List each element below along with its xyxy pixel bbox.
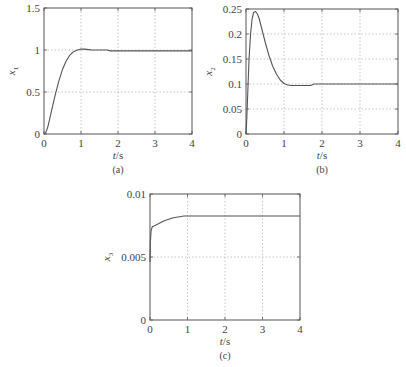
y-tick-label: 0.05 [223,103,243,115]
y-tick-label: 0.2 [228,28,242,40]
x-tick-label: 0 [243,137,249,149]
x-tick-label: 0 [41,137,47,149]
y-axis-label: x2 [202,67,217,77]
y-tick-label: 0.01 [127,188,146,200]
x-tick-label: 2 [319,137,325,149]
y-tick-label: 0.15 [223,53,243,65]
y-tick-label: 0 [35,128,41,140]
subplot-b: 0123400.050.10.150.20.25t/s(b)x2 [202,3,402,176]
x-tick-label: 4 [395,137,401,149]
y-tick-label: 0.1 [228,78,242,90]
grid-lines [44,8,192,134]
y-axis-label: x1 [5,66,20,76]
x-tick-label: 1 [281,137,287,149]
x-tick-label: 3 [357,137,363,149]
y-axis-label: x3 [100,252,115,262]
x-tick-label: 2 [115,137,121,149]
figure-canvas: 0123400.511.5t/s(a)x1 0123400.050.10.150… [0,0,406,367]
y-tick-label: 0.5 [26,86,40,98]
x-tick-label: 1 [185,323,191,335]
x-tick-label: 4 [297,323,303,335]
x-tick-label: 3 [152,137,158,149]
subplot-caption: (a) [112,164,123,176]
grid-lines [246,9,398,134]
x-axis-label: t/s [220,335,230,347]
x-tick-label: 2 [222,323,228,335]
y-tick-label: 0 [237,128,243,140]
subplot-a: 0123400.511.5t/s(a)x1 [5,2,195,176]
subplot-c: 0123400.0050.01t/s(c)x3 [100,188,303,362]
grid-lines [150,194,300,320]
x-axis-label: t/s [113,149,123,161]
x-tick-label: 4 [189,137,195,149]
figure: 0123400.511.5t/s(a)x1 0123400.050.10.150… [0,0,406,367]
x-tick-label: 1 [78,137,84,149]
y-tick-label: 1 [35,44,41,56]
y-tick-label: 1.5 [26,2,40,14]
x-axis-label: t/s [317,149,327,161]
subplot-caption: (c) [219,350,230,362]
x-tick-label: 3 [260,323,266,335]
y-tick-label: 0.005 [121,251,146,263]
y-tick-label: 0.25 [223,3,243,15]
x-tick-label: 0 [147,323,153,335]
y-tick-label: 0 [141,314,147,326]
subplot-caption: (b) [316,164,328,176]
